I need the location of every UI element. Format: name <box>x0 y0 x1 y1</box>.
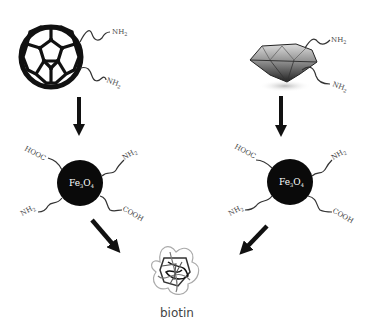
right-core-group-bottom-right: COOH <box>331 207 355 225</box>
diamond-group-1: NH2 <box>331 36 346 45</box>
left-magnetite-core: Fe3O4 <box>57 160 103 206</box>
right-core-group-top-left: HOOC <box>233 143 257 161</box>
linker-icon <box>80 31 110 42</box>
fullerene-group-2: NH2 <box>105 76 123 90</box>
left-core-group-top-right: NH2 <box>121 147 139 163</box>
arrow-diagonal-right <box>244 226 267 250</box>
biotin-tangle-icon <box>152 247 199 295</box>
arrow-diagonal-left <box>92 220 116 248</box>
right-core-group-bottom-left: NH2 <box>227 203 245 218</box>
reaction-diagram: NH2 NH2 NH2 NH2 Fe3O4 HOOC NH2 NH2 COOH … <box>0 0 370 328</box>
right-core-group-top-right: NH2 <box>330 147 348 163</box>
fullerene-group-1: NH2 <box>112 28 127 37</box>
left-core-group-bottom-right: COOH <box>121 205 145 223</box>
fullerene-icon <box>21 27 81 87</box>
left-core-group-bottom-left: NH2 <box>19 203 37 218</box>
diamond-group-2: NH2 <box>331 80 349 94</box>
linker-icon <box>80 67 106 80</box>
right-magnetite-core: Fe3O4 <box>267 159 313 205</box>
left-core-group-top-left: HOOC <box>23 145 47 163</box>
diamond-icon <box>250 44 317 92</box>
linker-icon <box>305 39 330 48</box>
biotin-label: biotin <box>160 306 194 320</box>
